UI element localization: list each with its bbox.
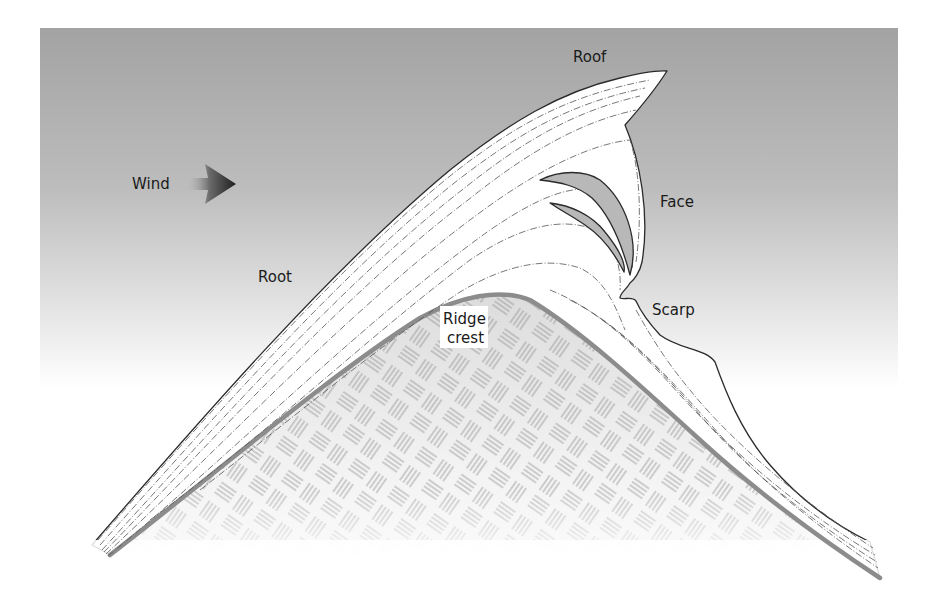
- label-root: Root: [258, 268, 292, 286]
- label-scarp: Scarp: [652, 301, 695, 319]
- cornice-diagram: Roof Wind Face Root Scarp Ridge crest: [0, 0, 945, 602]
- label-roof: Roof: [573, 48, 607, 66]
- diagram-canvas: Roof Wind Face Root Scarp Ridge crest: [0, 0, 945, 602]
- label-ridge-crest-2: crest: [447, 329, 484, 347]
- label-ridge-crest-1: Ridge: [443, 310, 486, 328]
- label-face: Face: [660, 193, 694, 211]
- label-wind: Wind: [132, 175, 170, 193]
